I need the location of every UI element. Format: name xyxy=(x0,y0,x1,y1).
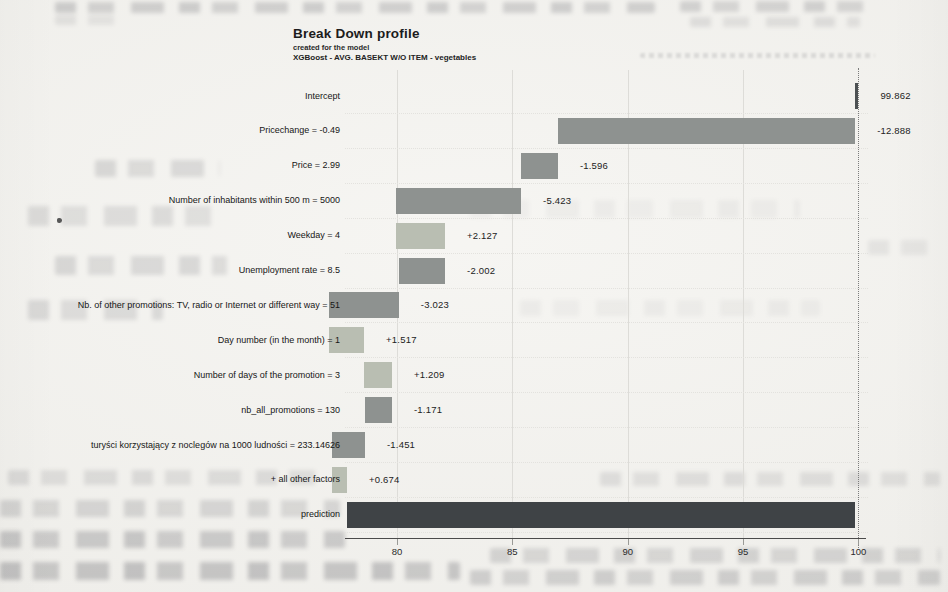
gridline xyxy=(345,113,868,114)
row-label: Unemployment rate = 8.5 xyxy=(0,265,340,275)
value-label: +0.674 xyxy=(369,474,400,485)
x-axis-tick-label: 95 xyxy=(738,546,749,557)
row-label: turyści korzystający z noclegów na 1000 … xyxy=(0,440,340,450)
gridline xyxy=(345,148,868,149)
gridline xyxy=(345,322,868,323)
gridline xyxy=(345,462,868,463)
x-axis-tick xyxy=(397,539,398,545)
intercept-guide-line xyxy=(858,68,859,548)
chart-header: Break Down profile created for the model… xyxy=(293,26,476,62)
row-label: Number of inhabitants within 500 m = 500… xyxy=(0,195,340,205)
x-axis-tick xyxy=(858,539,859,545)
gridline xyxy=(345,218,868,219)
bar-positive xyxy=(396,223,445,249)
row-label: + all other factors xyxy=(0,474,340,484)
x-axis-tick-label: 100 xyxy=(850,546,866,557)
value-label: +2.127 xyxy=(467,230,498,241)
x-axis-tick xyxy=(512,539,513,545)
x-axis-line xyxy=(345,538,866,539)
value-label: +1.517 xyxy=(386,334,417,345)
value-label: -2.002 xyxy=(467,265,495,276)
breakdown-chart: 80859095100Intercept99.862Pricechange = … xyxy=(0,0,948,592)
row-label: Price = 2.99 xyxy=(0,160,340,170)
gridline xyxy=(345,183,868,184)
gridline xyxy=(345,253,868,254)
x-axis-tick-label: 85 xyxy=(507,546,518,557)
row-label: Number of days of the promotion = 3 xyxy=(0,370,340,380)
gridline xyxy=(345,288,868,289)
chart-model-line: XGBoost - AVG. BASEKT W/O ITEM - vegetab… xyxy=(293,53,476,62)
value-label: -12.888 xyxy=(877,125,911,136)
row-label: Intercept xyxy=(0,91,340,101)
row-label: Weekday = 4 xyxy=(0,230,340,240)
gridline xyxy=(512,70,513,538)
x-axis-tick xyxy=(628,539,629,545)
value-label: 99.862 xyxy=(880,90,910,101)
x-axis-tick-label: 90 xyxy=(622,546,633,557)
bar-negative xyxy=(521,153,558,179)
value-label: -1.171 xyxy=(414,404,442,415)
gridline xyxy=(345,392,868,393)
bar-negative xyxy=(399,258,445,284)
bar-prediction xyxy=(347,502,855,528)
x-axis-tick xyxy=(743,539,744,545)
value-label: -1.451 xyxy=(387,439,415,450)
row-label: prediction xyxy=(0,509,340,519)
bar-intercept xyxy=(855,83,858,109)
row-label: Day number (in the month) = 1 xyxy=(0,335,340,345)
bar-negative xyxy=(558,118,855,144)
row-label: Nb. of other promotions: TV, radio or In… xyxy=(0,300,340,310)
value-label: -5.423 xyxy=(543,195,571,206)
gridline xyxy=(345,497,868,498)
value-label: -3.023 xyxy=(421,299,449,310)
value-label: +1.209 xyxy=(414,369,445,380)
bar-negative xyxy=(365,397,392,423)
row-label: Pricechange = -0.49 xyxy=(0,125,340,135)
gridline xyxy=(345,357,868,358)
bar-negative xyxy=(396,188,521,214)
x-axis-tick-label: 80 xyxy=(392,546,403,557)
gridline xyxy=(345,532,868,533)
scanned-book-page: Break Down profile created for the model… xyxy=(0,0,948,592)
value-label: -1.596 xyxy=(580,160,608,171)
bar-positive xyxy=(364,362,392,388)
row-label: nb_all_promotions = 130 xyxy=(0,405,340,415)
chart-title: Break Down profile xyxy=(293,26,476,41)
gridline xyxy=(345,427,868,428)
chart-subtitle: created for the model xyxy=(293,43,476,52)
